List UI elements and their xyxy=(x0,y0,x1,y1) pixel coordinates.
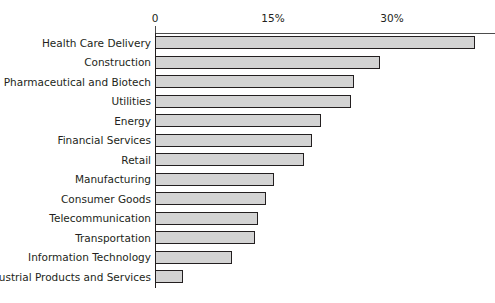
bar xyxy=(155,231,255,244)
bar xyxy=(155,95,351,108)
bar-track xyxy=(155,72,495,92)
category-label: Health Care Delivery xyxy=(0,37,151,49)
bar-track xyxy=(155,111,495,131)
bar-track xyxy=(155,248,495,268)
bar-row: Pharmaceutical and Biotech xyxy=(0,72,495,92)
x-axis-tick-label-30: 30% xyxy=(380,12,403,25)
bar xyxy=(155,251,232,264)
bar-row: Financial Services xyxy=(0,131,495,151)
bar-row: Industrial Products and Services xyxy=(0,267,495,287)
category-label: Manufacturing xyxy=(0,173,151,185)
bar-row: Consumer Goods xyxy=(0,189,495,209)
bar-track xyxy=(155,209,495,229)
bar-track xyxy=(155,131,495,151)
category-label: Industrial Products and Services xyxy=(0,271,151,283)
bar xyxy=(155,192,266,205)
category-label: Information Technology xyxy=(0,251,151,263)
bar-track xyxy=(155,189,495,209)
bar xyxy=(155,270,183,283)
x-axis-tick-label-0: 0 xyxy=(152,12,159,25)
bar-track xyxy=(155,53,495,73)
bar xyxy=(155,75,354,88)
bar-row: Transportation xyxy=(0,228,495,248)
bar xyxy=(155,212,258,225)
bar-row: Telecommunication xyxy=(0,209,495,229)
bar-track xyxy=(155,267,495,287)
bar-row: Construction xyxy=(0,53,495,73)
bar-row: Information Technology xyxy=(0,248,495,268)
category-label: Energy xyxy=(0,115,151,127)
bar-track xyxy=(155,92,495,112)
category-label: Consumer Goods xyxy=(0,193,151,205)
bar-chart: 0 15% 30% Health Care DeliveryConstructi… xyxy=(0,0,495,303)
bar-track xyxy=(155,170,495,190)
x-axis-tick-label-15: 15% xyxy=(261,12,284,25)
category-label: Utilities xyxy=(0,95,151,107)
category-label: Transportation xyxy=(0,232,151,244)
bar xyxy=(155,114,321,127)
bar-rows: Health Care DeliveryConstructionPharmace… xyxy=(0,33,495,287)
category-label: Financial Services xyxy=(0,134,151,146)
bar-track xyxy=(155,150,495,170)
bar xyxy=(155,173,274,186)
category-label: Pharmaceutical and Biotech xyxy=(0,76,151,88)
bar xyxy=(155,56,380,69)
category-label: Construction xyxy=(0,56,151,68)
bar-track xyxy=(155,228,495,248)
bar-row: Health Care Delivery xyxy=(0,33,495,53)
bar-row: Manufacturing xyxy=(0,170,495,190)
bar-row: Energy xyxy=(0,111,495,131)
bar-row: Retail xyxy=(0,150,495,170)
bar-row: Utilities xyxy=(0,92,495,112)
category-label: Retail xyxy=(0,154,151,166)
bar xyxy=(155,153,304,166)
bar xyxy=(155,134,312,147)
bar-track xyxy=(155,33,495,53)
category-label: Telecommunication xyxy=(0,212,151,224)
x-axis-tick-labels: 0 15% 30% xyxy=(0,12,495,26)
bar xyxy=(155,36,475,49)
